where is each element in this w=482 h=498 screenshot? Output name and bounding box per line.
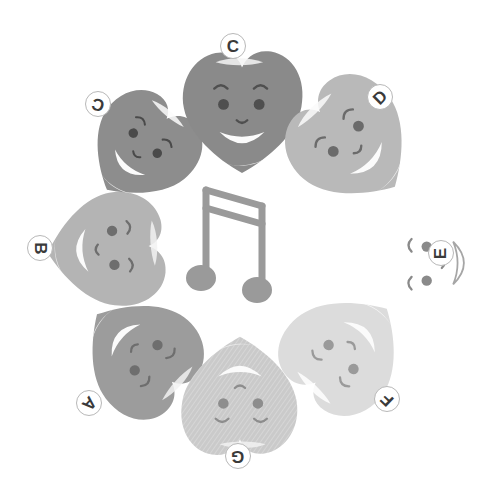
character-blob-g[interactable] [176, 333, 304, 461]
label-badge-g[interactable]: G [225, 443, 251, 469]
eye-left [422, 275, 432, 285]
label-badge-d[interactable]: D [367, 84, 393, 110]
beamed-eighth-notes-icon [186, 182, 286, 304]
illustration-canvas: ABCCDEFG [0, 0, 482, 498]
eye-right [218, 398, 228, 408]
blob-shape [176, 333, 304, 461]
label-badge-f[interactable]: F [374, 386, 400, 412]
label-letter: A [79, 393, 100, 414]
eye-left [253, 398, 263, 408]
label-badge-c-left[interactable]: C [85, 91, 111, 117]
label-letter: G [231, 448, 244, 465]
label-letter: B [32, 242, 49, 254]
blob-body [181, 337, 297, 455]
label-badge-c[interactable]: C [220, 33, 246, 59]
label-badge-a[interactable]: A [76, 390, 102, 416]
label-badge-b[interactable]: B [27, 235, 53, 261]
eye-left [218, 99, 229, 110]
label-letter: C [90, 94, 106, 114]
label-badge-e[interactable]: E [428, 240, 454, 266]
label-letter: C [227, 38, 239, 55]
music-note-shape [186, 182, 286, 304]
eye-right [254, 99, 265, 110]
label-letter: D [370, 87, 391, 108]
blob-body [376, 205, 482, 319]
label-letter: F [377, 389, 396, 408]
label-letter: E [433, 247, 450, 258]
